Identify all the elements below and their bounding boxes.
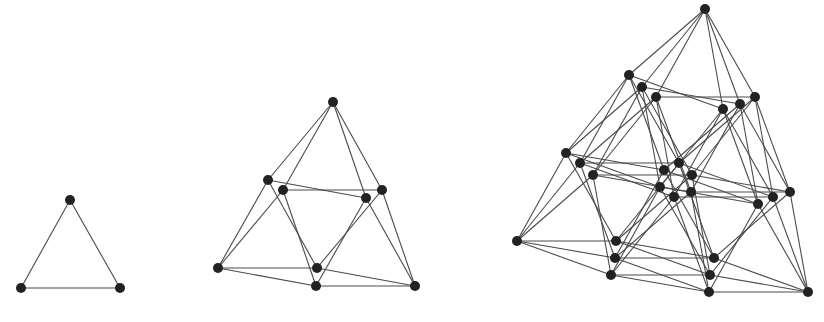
graph-edge [629, 75, 679, 163]
graph-node [753, 199, 763, 209]
graph-node [768, 192, 778, 202]
graph-edge [566, 153, 616, 241]
graph-edge [317, 190, 382, 268]
graph-edge [629, 9, 705, 75]
graph-edge [611, 187, 660, 275]
graph-node [65, 195, 75, 205]
graph-node [704, 287, 714, 297]
graph-edge [616, 241, 714, 258]
graph-edge [218, 190, 283, 268]
edges [517, 9, 808, 292]
graph-node [674, 158, 684, 168]
graph-edge [333, 102, 366, 198]
graph-node [278, 185, 288, 195]
graph-node [575, 158, 585, 168]
graph-edge [615, 192, 691, 258]
graph-level-3 [512, 4, 813, 297]
nodes [512, 4, 813, 297]
graph-node [637, 82, 647, 92]
graph-edge [218, 268, 316, 286]
graph-edge [268, 102, 333, 180]
graph-node [312, 263, 322, 273]
graph-node [669, 192, 679, 202]
graph-edge [710, 275, 808, 292]
graph-node [651, 92, 661, 102]
graph-edge [692, 175, 790, 192]
graph-node [561, 148, 571, 158]
graph-node [785, 187, 795, 197]
graph-edge [674, 197, 709, 292]
graph-edge [382, 190, 415, 286]
graph-node [686, 187, 696, 197]
graph-edge [366, 198, 415, 286]
graph-node [16, 283, 26, 293]
graph-edge [710, 197, 773, 275]
graph-edge [517, 163, 580, 241]
graph-level-2 [213, 97, 420, 291]
graph-node [311, 281, 321, 291]
graph-edge [656, 97, 691, 192]
graph-edge [283, 102, 333, 190]
nodes [16, 195, 125, 293]
edges [218, 102, 415, 286]
graph-node [606, 270, 616, 280]
graph-node [687, 170, 697, 180]
graph-edge [566, 87, 642, 153]
graph-edge [593, 175, 611, 275]
graph-node [263, 175, 273, 185]
graph-edge [283, 190, 316, 286]
graph-node [410, 281, 420, 291]
graph-edge [714, 258, 808, 292]
graph-edge [629, 75, 664, 170]
graph-node [361, 193, 371, 203]
graph-edge [642, 9, 705, 87]
graph-node [115, 283, 125, 293]
graph-edge [517, 153, 566, 241]
graph-node [588, 170, 598, 180]
graph-edge [593, 175, 691, 192]
graph-edge [705, 9, 740, 104]
edges [21, 200, 120, 288]
graph-edge [218, 180, 268, 268]
graph-node [512, 236, 522, 246]
graph-node [803, 287, 813, 297]
graph-node [624, 70, 634, 80]
graph-edge [70, 200, 120, 288]
graph-edge [333, 102, 382, 190]
graph-node [735, 99, 745, 109]
graph-edge [656, 9, 705, 97]
graph-node [328, 97, 338, 107]
graph-node [377, 185, 387, 195]
graph-node [611, 236, 621, 246]
graph-edge [580, 97, 656, 163]
graph-node [750, 92, 760, 102]
graph-edge [21, 200, 70, 288]
nodes [213, 97, 420, 291]
graph-node [705, 270, 715, 280]
graph-edge [517, 241, 615, 258]
graph-node [610, 253, 620, 263]
graph-node [718, 104, 728, 114]
graph-edge [773, 197, 808, 292]
graph-edge [317, 268, 415, 286]
graph-edge [517, 175, 593, 241]
graph-node [213, 263, 223, 273]
hamming-graphs-figure [0, 0, 824, 322]
graph-edge [679, 163, 714, 258]
graph-edge [517, 241, 611, 275]
graph-edge [580, 163, 615, 258]
graph-node [709, 253, 719, 263]
graph-edge [755, 97, 790, 192]
graph-node [655, 182, 665, 192]
graph-edge [611, 275, 709, 292]
graph-node [659, 165, 669, 175]
graph-level-1 [16, 195, 125, 293]
graph-edge [268, 180, 317, 268]
graph-node [700, 4, 710, 14]
